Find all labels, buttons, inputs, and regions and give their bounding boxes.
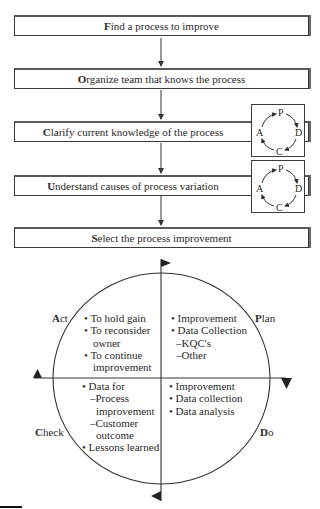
act-items: • To hold gain • To reconsider owner • T… — [84, 312, 152, 373]
label-do: Do — [260, 426, 273, 438]
flag-icon — [161, 259, 171, 267]
label-check: Check — [35, 426, 64, 438]
label-act: Act — [52, 312, 68, 324]
arrow-up-icon — [33, 369, 42, 378]
check-items: • Data for –Process improvement –Custome… — [82, 380, 159, 454]
arrow-down-icon — [281, 378, 292, 389]
plan-items: • Improvement • Data Collection –KQC's –… — [171, 312, 247, 361]
label-plan: Plan — [255, 312, 275, 324]
arrow-left-icon — [151, 491, 161, 501]
do-items: • Improvement • Data collection • Data a… — [169, 380, 243, 417]
